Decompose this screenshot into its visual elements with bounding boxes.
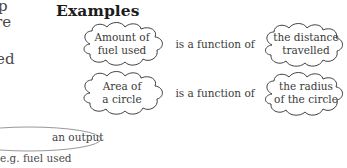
relation-label: is a function of — [172, 69, 258, 117]
output-cloud: Area of a circle — [76, 69, 168, 117]
example-footnote: e.g. fuel used — [0, 152, 72, 164]
relation-label: is a function of — [172, 20, 258, 68]
cloud-outline — [265, 73, 342, 116]
output-cloud: Amount of fuel used — [76, 20, 168, 68]
cloud-outline — [84, 23, 162, 66]
output-legend-label: an output — [52, 131, 103, 143]
input-cloud: the radius of the circle — [259, 69, 347, 117]
cloud-outline — [84, 72, 162, 115]
example-row: Amount of fuel used is a function of the… — [0, 20, 347, 68]
input-cloud: the distance travelled — [259, 20, 347, 68]
page-title: Examples — [56, 1, 140, 20]
cloud-outline — [265, 24, 342, 67]
example-row: Area of a circle is a function of the ra… — [0, 69, 347, 117]
worksheet-page: p re ed Examples Amount of fuel used is … — [0, 0, 347, 168]
